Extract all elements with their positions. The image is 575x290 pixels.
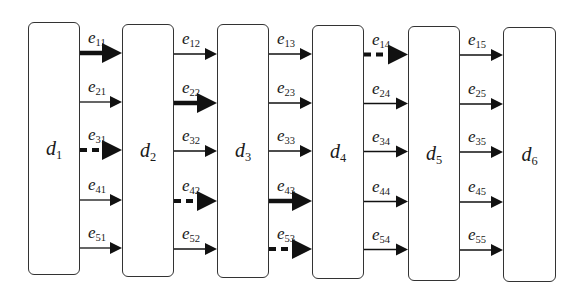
node-label: d6 [504, 143, 555, 169]
edge-label-subscript: 13 [285, 38, 296, 49]
edge-label: e55 [468, 226, 486, 246]
edge-35-arrow [460, 146, 503, 158]
edge-label-subscript: 51 [96, 232, 107, 243]
edge-label: e25 [468, 80, 486, 100]
arrowhead-icon [491, 98, 503, 110]
edge-54-arrow [364, 244, 408, 256]
arrowhead-icon [205, 243, 217, 255]
node-label-subscript: 4 [340, 151, 346, 165]
node-label-base: d [426, 142, 436, 164]
node-d4: d4 [312, 25, 364, 279]
edge-45-arrow [460, 196, 503, 208]
node-d1: d1 [28, 22, 80, 275]
edge-12-arrow [174, 48, 217, 60]
edge-label: e43 [277, 177, 295, 197]
edge-label: e15 [468, 31, 486, 51]
node-label: d4 [313, 140, 363, 166]
edge-label: e13 [277, 30, 295, 50]
edge-label-subscript: 31 [96, 134, 107, 145]
arrowhead-icon [205, 145, 217, 157]
edge-label-base: e [182, 78, 190, 97]
arrowhead-icon [300, 48, 312, 60]
node-label: d2 [123, 139, 173, 165]
edge-label-base: e [277, 78, 285, 97]
edge-21-arrow [80, 96, 122, 108]
edge-label: e53 [277, 225, 295, 245]
edge-label-subscript: 43 [285, 185, 296, 196]
arrowhead-icon [491, 244, 503, 256]
edge-label-base: e [468, 225, 476, 244]
arrowhead-icon [396, 196, 408, 208]
edge-label-subscript: 45 [476, 186, 487, 197]
edge-label-subscript: 35 [476, 136, 487, 147]
edge-label: e45 [468, 178, 486, 198]
node-label-subscript: 6 [531, 153, 537, 167]
node-d3: d3 [217, 24, 269, 278]
edge-label-base: e [182, 126, 190, 145]
edge-label: e41 [88, 176, 106, 196]
arrowhead-icon [300, 145, 312, 157]
edge-label: e24 [372, 80, 390, 100]
node-label-base: d [330, 140, 340, 162]
edge-label-subscript: 24 [380, 88, 391, 99]
edge-label-subscript: 32 [190, 135, 201, 146]
edge-55-arrow [460, 244, 503, 256]
edge-label-base: e [372, 127, 380, 146]
edge-label-base: e [468, 177, 476, 196]
edge-label-base: e [182, 29, 190, 48]
edge-51-arrow [80, 242, 122, 254]
edge-label: e11 [88, 29, 106, 49]
edge-label-base: e [277, 29, 285, 48]
edge-label-base: e [88, 28, 96, 47]
edge-25-arrow [460, 98, 503, 110]
edge-label-base: e [277, 126, 285, 145]
edge-label-base: e [88, 77, 96, 96]
edge-label-subscript: 25 [476, 88, 487, 99]
edge-label-base: e [372, 79, 380, 98]
edge-15-arrow [460, 49, 503, 61]
arrowhead-icon [300, 97, 312, 109]
edge-34-arrow [364, 146, 408, 158]
edge-52-arrow [174, 243, 217, 255]
arrowhead-icon [396, 244, 408, 256]
edge-33-arrow [269, 145, 312, 157]
flow-diagram: d1d2d3d4d5d6 e11e21e31e41e51e12e22e32e42… [0, 0, 575, 290]
edge-label-subscript: 41 [96, 184, 107, 195]
arrowhead-icon [396, 98, 408, 110]
edge-label-subscript: 34 [380, 136, 391, 147]
edge-label: e35 [468, 128, 486, 148]
edge-label-subscript: 54 [380, 234, 391, 245]
node-label-base: d [235, 139, 245, 161]
edge-label-subscript: 23 [285, 87, 296, 98]
node-d5: d5 [408, 26, 460, 281]
node-label-base: d [46, 137, 56, 159]
edge-label-subscript: 42 [190, 185, 201, 196]
edge-label: e22 [182, 79, 200, 99]
node-label-subscript: 1 [56, 147, 62, 161]
edge-label-subscript: 14 [380, 39, 391, 50]
edge-label-subscript: 22 [190, 87, 201, 98]
arrowhead-icon [110, 242, 122, 254]
edge-label: e14 [372, 31, 390, 51]
node-label-subscript: 5 [436, 152, 442, 166]
edge-label-base: e [88, 223, 96, 242]
edge-label-subscript: 44 [380, 186, 391, 197]
edge-label: e32 [182, 127, 200, 147]
node-d6: d6 [503, 27, 556, 282]
edge-label-base: e [88, 175, 96, 194]
edge-44-arrow [364, 196, 408, 208]
arrowhead-icon [110, 96, 122, 108]
edge-label: e34 [372, 128, 390, 148]
arrowhead-icon [205, 48, 217, 60]
edge-label-base: e [277, 224, 285, 243]
edge-label-subscript: 52 [190, 233, 201, 244]
arrowhead-icon [388, 45, 408, 65]
edge-label-subscript: 15 [476, 39, 487, 50]
edge-label-base: e [372, 225, 380, 244]
edge-label-base: e [277, 176, 285, 195]
edge-41-arrow [80, 194, 122, 206]
edge-label-subscript: 21 [96, 86, 107, 97]
edge-label-base: e [372, 177, 380, 196]
edge-23-arrow [269, 97, 312, 109]
edge-label-subscript: 33 [285, 135, 296, 146]
